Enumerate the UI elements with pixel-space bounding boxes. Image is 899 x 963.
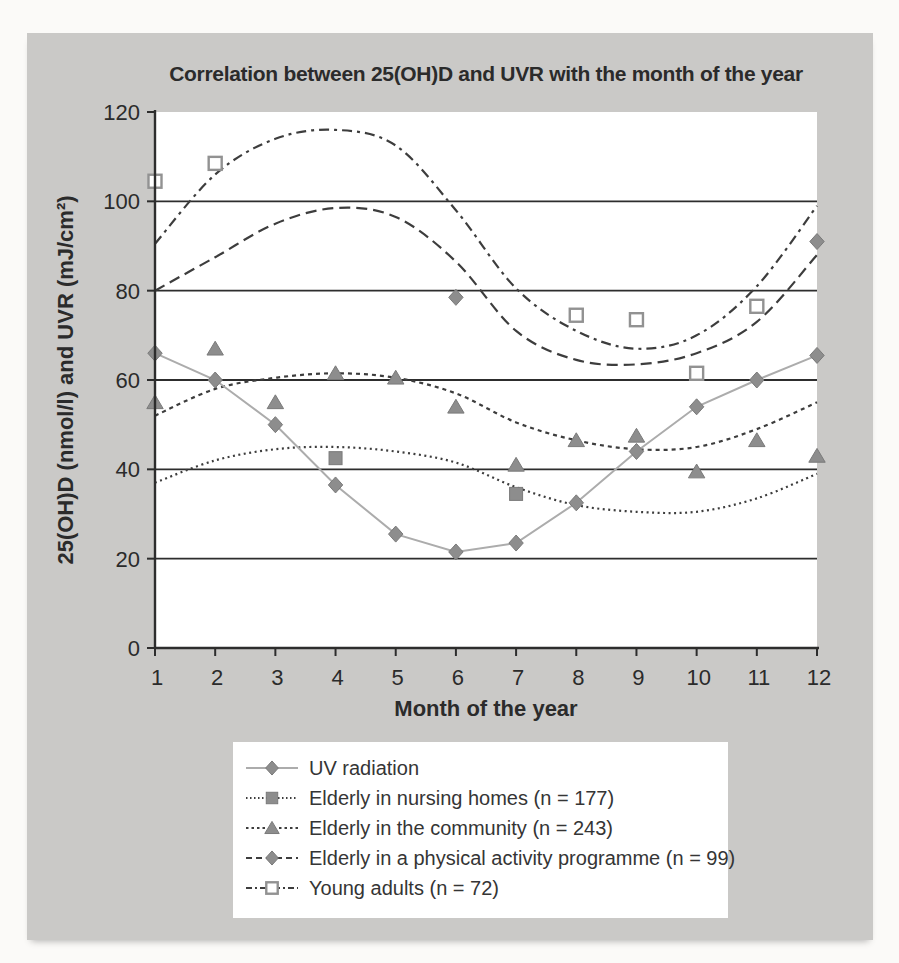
legend-marker-filled-diamond	[266, 761, 279, 775]
y-tick-label-80: 80	[116, 279, 140, 304]
legend: UV radiationElderly in nursing homes (n …	[233, 742, 728, 918]
legend-marker-open-square	[266, 882, 277, 893]
legend-item-0: UV radiation	[245, 753, 728, 783]
x-axis-label: Month of the year	[394, 696, 577, 722]
x-tick-label-9: 9	[632, 665, 644, 690]
chart-title: Correlation between 25(OH)D and UVR with…	[155, 62, 817, 86]
figure-page: Correlation between 25(OH)D and UVR with…	[0, 0, 899, 963]
legend-swatch-filled-triangle	[245, 818, 299, 838]
y-tick-label-40: 40	[116, 457, 140, 482]
marker-series-1-month-7	[510, 487, 523, 500]
x-tick-label-10: 10	[686, 665, 710, 690]
legend-item-label: UV radiation	[309, 757, 419, 780]
plot-area: 020406080100120123456789101112	[155, 112, 817, 648]
x-tick-label-7: 7	[512, 665, 524, 690]
legend-item-label: Elderly in nursing homes (n = 177)	[309, 787, 614, 810]
x-tick-label-8: 8	[572, 665, 584, 690]
legend-marker-filled-square	[266, 792, 277, 803]
y-tick-label-0: 0	[128, 636, 140, 661]
y-tick-label-100: 100	[103, 189, 140, 214]
y-tick-label-20: 20	[116, 547, 140, 572]
y-tick-label-120: 120	[103, 100, 140, 125]
y-axis-label: 25(OH)D (nmol/l) and UVR (mJ/cm²)	[53, 195, 79, 564]
y-tick-label-60: 60	[116, 368, 140, 393]
legend-marker-filled-diamond	[266, 851, 279, 865]
x-tick-label-2: 2	[211, 665, 223, 690]
x-tick-label-4: 4	[331, 665, 343, 690]
legend-marker-filled-triangle	[265, 821, 279, 833]
legend-swatch-filled-square	[245, 788, 299, 808]
x-tick-label-12: 12	[807, 665, 831, 690]
marker-series-4-month-8	[570, 309, 583, 322]
x-tick-label-6: 6	[452, 665, 464, 690]
legend-swatch-open-square	[245, 878, 299, 898]
legend-item-label: Young adults (n = 72)	[309, 877, 499, 900]
x-tick-label-11: 11	[747, 665, 770, 690]
legend-item-label: Elderly in a physical activity programme…	[309, 847, 735, 870]
legend-item-2: Elderly in the community (n = 243)	[245, 813, 728, 843]
x-tick-label-1: 1	[151, 665, 163, 690]
legend-item-4: Young adults (n = 72)	[245, 873, 728, 903]
legend-item-3: Elderly in a physical activity programme…	[245, 843, 728, 873]
legend-swatch-filled-diamond	[245, 848, 299, 868]
marker-series-4-month-10	[690, 367, 703, 380]
legend-item-label: Elderly in the community (n = 243)	[309, 817, 613, 840]
legend-item-1: Elderly in nursing homes (n = 177)	[245, 783, 728, 813]
legend-swatch-filled-diamond	[245, 758, 299, 778]
marker-series-1-month-4	[329, 452, 342, 465]
marker-series-4-month-2	[209, 157, 222, 170]
x-tick-label-3: 3	[271, 665, 283, 690]
x-tick-label-5: 5	[392, 665, 404, 690]
marker-series-4-month-9	[630, 313, 643, 326]
marker-series-4-month-11	[750, 300, 763, 313]
